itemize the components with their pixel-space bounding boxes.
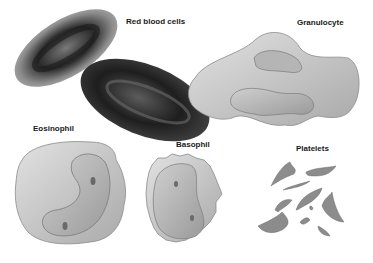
label-platelets: Platelets — [296, 144, 329, 153]
eosinophil-cell — [15, 142, 125, 244]
basophil-cell — [146, 154, 222, 242]
granulocyte-cell — [188, 32, 359, 125]
label-eosinophil: Eosinophil — [33, 124, 74, 133]
blood-cells-illustration: Red blood cells Granulocyte Eosinophil B… — [0, 0, 373, 263]
platelets-cluster — [258, 162, 344, 236]
label-granulocyte: Granulocyte — [297, 18, 344, 27]
label-basophil: Basophil — [176, 140, 210, 149]
label-red-blood-cells: Red blood cells — [126, 17, 185, 26]
